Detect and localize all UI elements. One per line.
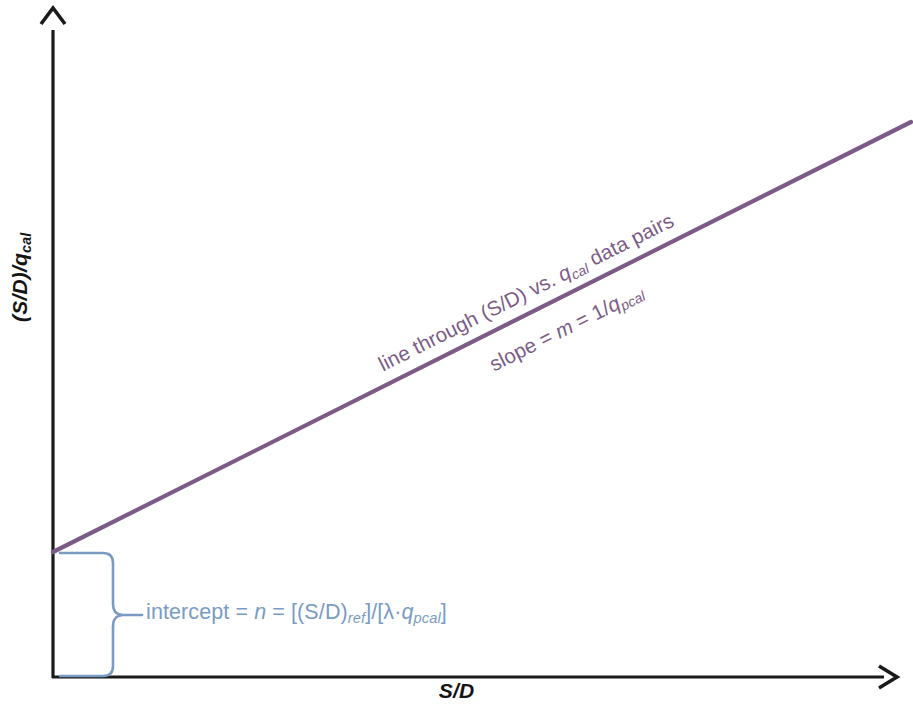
- y-axis-title-subscript: cal: [18, 233, 34, 253]
- intercept-brace: [60, 553, 122, 676]
- x-axis-title: S/D: [0, 679, 913, 703]
- chart-figure: (S/D)/qcal S/D line through (S/D) vs. qc…: [0, 0, 913, 714]
- intercept-italic-n: n: [254, 600, 266, 624]
- y-axis-title: (S/D)/qcal: [0, 282, 90, 322]
- intercept-text-d: ]: [441, 600, 447, 624]
- intercept-symbol: q: [401, 600, 413, 624]
- intercept-text-a: intercept =: [146, 600, 254, 624]
- y-axis-title-symbol: q: [8, 253, 31, 266]
- intercept-text-b: = [(S/D): [266, 600, 348, 624]
- intercept-subscript-ref: ref: [348, 610, 365, 626]
- intercept-annotation: intercept = n = [(S/D)ref]/[λ·qpcal]: [146, 600, 447, 626]
- intercept-subscript-pcal: pcal: [414, 610, 441, 626]
- intercept-text-c: ]/[λ·: [365, 600, 401, 624]
- y-axis-title-prefix: (S/D)/: [8, 266, 31, 322]
- intercept-brace-layer: [0, 0, 913, 714]
